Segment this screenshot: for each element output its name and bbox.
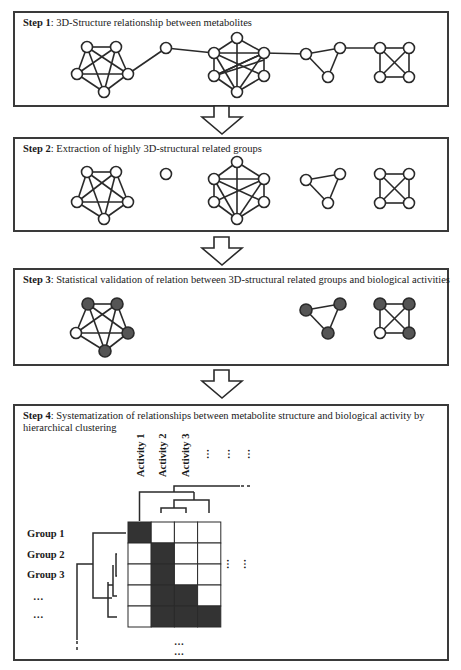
heatmap-cell — [198, 606, 221, 627]
heatmap-cell — [174, 585, 197, 606]
row-dendrogram — [77, 533, 126, 653]
heatmap-cell — [128, 585, 151, 606]
heatmap-cell — [174, 606, 197, 627]
heatmap-cell — [151, 585, 174, 606]
heatmap-cell — [151, 543, 174, 564]
heatmap-cell — [174, 543, 197, 564]
heatmap-cell — [198, 543, 221, 564]
heatmap-grid — [128, 522, 221, 627]
heatmap-cell — [198, 522, 221, 543]
heatmap-cell — [174, 522, 197, 543]
heatmap-cell — [128, 606, 151, 627]
heatmap-cell — [151, 606, 174, 627]
column-dendrogram — [140, 486, 251, 521]
heatmap-dendrogram — [0, 0, 461, 670]
heatmap-cell — [174, 564, 197, 585]
heatmap-cell — [198, 585, 221, 606]
heatmap-cell — [198, 564, 221, 585]
heatmap-cell — [128, 564, 151, 585]
heatmap-cell — [128, 543, 151, 564]
heatmap-cell — [151, 522, 174, 543]
heatmap-cell — [151, 564, 174, 585]
heatmap-cell — [128, 522, 151, 543]
